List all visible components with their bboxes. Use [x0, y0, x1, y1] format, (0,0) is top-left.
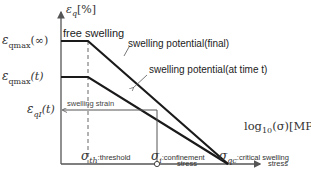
swelling-strain-label: swelling strain — [67, 99, 114, 108]
x-tick-sigma-i-desc2: stress — [177, 159, 197, 168]
x-axis-label: log10(σ)[MPa] — [244, 119, 311, 135]
x-tick-sigma-qc-desc2: stress — [268, 159, 288, 168]
y-axis-label: εq[%] — [66, 3, 96, 18]
potential-t-label: swelling potential(at time t) — [149, 64, 267, 75]
free-swelling-label: free swelling — [63, 27, 124, 39]
y-tick-qmax-inf: εqmax(∞) — [2, 33, 48, 50]
potential-final-label: swelling potential(final) — [128, 38, 229, 49]
y-tick-qmax-t: εqmax(t) — [2, 69, 43, 86]
y-tick-qi-t: εqI(t) — [27, 102, 55, 119]
x-tick-sigma-th: σth:threshold — [81, 146, 131, 164]
